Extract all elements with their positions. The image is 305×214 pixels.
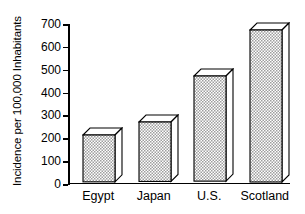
bar <box>82 127 123 183</box>
y-axis-tick-mark <box>63 24 68 26</box>
y-axis-tick-mark <box>63 184 68 186</box>
y-axis-title: Incidence per 100,000 Inhabitants <box>11 11 23 191</box>
bar-chart: Incidence per 100,000 Inhabitants 010020… <box>0 0 305 214</box>
y-axis-tick-label: 500 <box>27 64 61 76</box>
y-axis-tick-label: 600 <box>27 41 61 53</box>
bar <box>193 68 234 182</box>
y-axis-tick-label: 400 <box>27 87 61 99</box>
y-axis-tick-mark <box>63 138 68 140</box>
y-axis-tick-label: 700 <box>27 18 61 30</box>
x-axis-tick-label: Scotland <box>225 189 305 203</box>
y-axis-tick-mark <box>63 115 68 117</box>
y-axis-tick-mark <box>63 93 68 95</box>
bar <box>138 114 179 182</box>
y-axis-tick-label: 200 <box>27 132 61 144</box>
y-axis-line <box>68 24 70 185</box>
y-axis-tick-label: 100 <box>27 155 61 167</box>
plot-area <box>68 24 290 184</box>
y-axis-tick-labels: 0100200300400500600700 <box>27 0 61 214</box>
y-axis-tick-mark <box>63 70 68 72</box>
bar <box>249 22 290 183</box>
y-axis-tick-label: 300 <box>27 109 61 121</box>
y-axis-tick-mark <box>63 47 68 49</box>
y-axis-tick-mark <box>63 161 68 163</box>
y-axis-tick-label: 0 <box>27 178 61 190</box>
